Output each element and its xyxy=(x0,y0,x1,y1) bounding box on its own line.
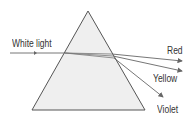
label-yellow: Yellow xyxy=(153,73,177,84)
label-violet: Violet xyxy=(157,104,178,115)
prism xyxy=(32,11,145,110)
label-red: Red xyxy=(167,45,183,56)
incident-ray xyxy=(10,51,65,55)
yellow-ray xyxy=(113,56,182,71)
label-white-light: White light xyxy=(12,38,52,49)
prism-diagram xyxy=(0,0,194,121)
